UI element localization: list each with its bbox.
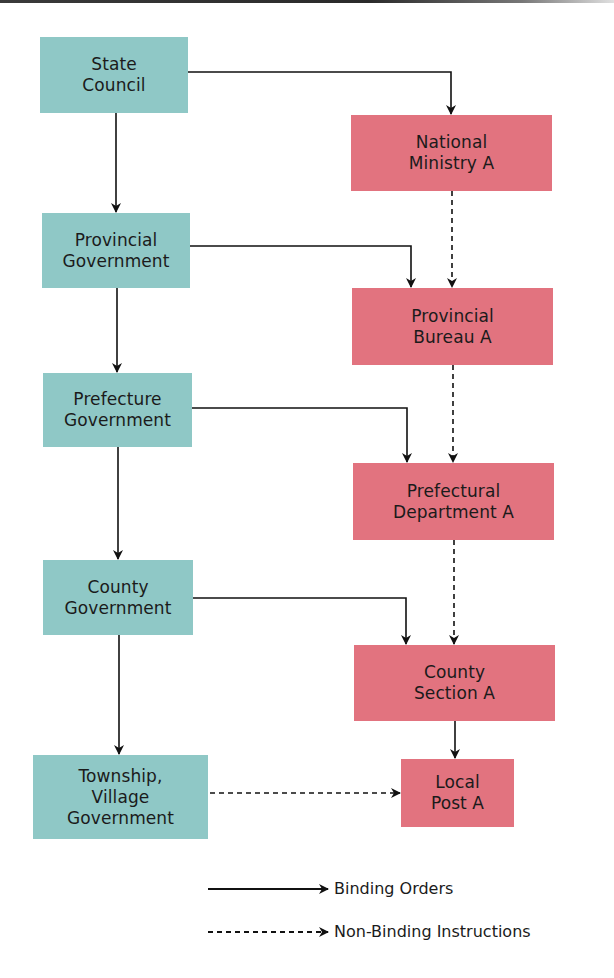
node-label: National Ministry A <box>409 132 495 174</box>
legend-binding-label: Binding Orders <box>334 879 453 898</box>
node-label: Prefectural Department A <box>393 481 514 523</box>
node-county-government: County Government <box>43 560 193 635</box>
edge-prefecture-to-department <box>192 408 407 462</box>
node-label: Township, Village Government <box>67 766 174 829</box>
legend-non-binding-label: Non-Binding Instructions <box>334 922 531 941</box>
node-prefecture-government: Prefecture Government <box>43 373 192 447</box>
node-state-council: State Council <box>40 37 188 113</box>
node-label: State Council <box>82 54 145 96</box>
node-provincial-government: Provincial Government <box>42 213 190 288</box>
edge-provincial-to-bureau <box>190 246 411 287</box>
node-township-village-government: Township, Village Government <box>33 755 208 839</box>
edge-state-to-national-ministry <box>188 72 451 114</box>
node-label: County Government <box>64 577 171 619</box>
edge-county-to-section <box>193 598 406 644</box>
node-label: County Section A <box>414 662 495 704</box>
node-label: Provincial Bureau A <box>411 306 494 348</box>
node-label: Provincial Government <box>62 230 169 272</box>
node-provincial-bureau-a: Provincial Bureau A <box>352 288 553 365</box>
node-county-section-a: County Section A <box>354 645 555 721</box>
node-local-post-a: Local Post A <box>401 759 514 827</box>
node-label: Local Post A <box>431 772 484 814</box>
node-label: Prefecture Government <box>64 389 171 431</box>
node-prefectural-department-a: Prefectural Department A <box>353 463 554 540</box>
node-national-ministry-a: National Ministry A <box>351 115 552 191</box>
